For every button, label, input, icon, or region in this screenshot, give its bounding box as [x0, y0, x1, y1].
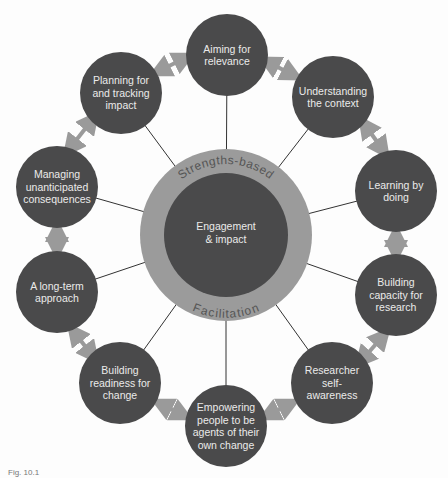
- node-label: Building capacity for research: [355, 276, 437, 314]
- node-label: Learning by doing: [355, 179, 437, 204]
- node-label: Managing unanticipated consequences: [16, 168, 98, 206]
- node-4: Researcher self-awareness: [291, 342, 373, 424]
- node-6: Building readiness for change: [79, 342, 161, 424]
- node-label: Empowering people to be agents of their …: [185, 401, 267, 451]
- node-0: Aiming for relevance: [186, 14, 268, 96]
- node-label: A long-term approach: [16, 280, 98, 305]
- center-label-line1: Engagement: [196, 220, 256, 232]
- node-label: Planning for and tracking impact: [80, 74, 162, 112]
- center-label: Engagement & impact: [176, 220, 276, 246]
- node-8: Managing unanticipated consequences: [16, 146, 98, 228]
- node-label: Aiming for relevance: [186, 43, 268, 68]
- node-label: Understanding the context: [292, 85, 374, 110]
- node-1: Understanding the context: [292, 56, 374, 138]
- node-9: Planning for and tracking impact: [80, 52, 162, 134]
- node-7: A long-term approach: [16, 251, 98, 333]
- figure-caption: Fig. 10.1: [8, 468, 39, 477]
- node-3: Building capacity for research: [355, 254, 437, 336]
- node-label: Researcher self-awareness: [291, 364, 373, 402]
- node-5: Empowering people to be agents of their …: [185, 385, 267, 467]
- node-label: Building readiness for change: [79, 364, 161, 402]
- node-2: Learning by doing: [355, 150, 437, 232]
- center-label-line2: & impact: [206, 233, 247, 245]
